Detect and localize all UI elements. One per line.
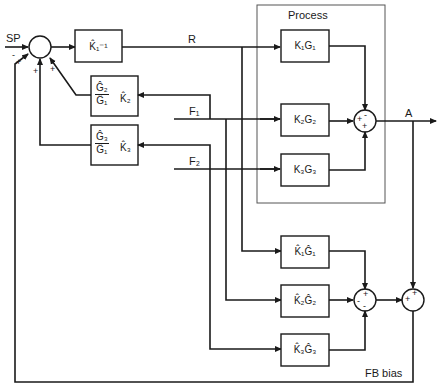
- input-sum-sign-k2: +: [50, 65, 55, 74]
- process-block-3-label: K₃G₃: [281, 165, 329, 175]
- input-sum-sign-sp: -: [12, 51, 15, 60]
- a-signal-label: A: [405, 108, 412, 119]
- g3-numerator: Ĝ₃: [95, 131, 109, 144]
- g2-numerator: Ĝ₂: [95, 82, 109, 95]
- input-sum-junction: [29, 36, 51, 58]
- k1-inverse-label: K̂₁⁻¹: [75, 42, 122, 52]
- g2-over-g1-fraction: Ĝ₂ Ĝ₁: [95, 82, 109, 106]
- process-sum-sign-top: -: [364, 111, 367, 120]
- g3-over-g1-fraction: Ĝ₃ Ĝ₁: [95, 131, 109, 155]
- f2-signal-label: F₂: [189, 156, 200, 167]
- process-block-2-label: K₂G₂: [281, 115, 329, 125]
- r-signal-label: R: [188, 34, 196, 45]
- fb-bias-label: FB bias: [365, 368, 402, 379]
- block-diagram: Process SP R F₁ F₂ A FB bias - + + + K̂₁…: [0, 0, 442, 391]
- setpoint-label: SP: [6, 33, 21, 44]
- model-block-3-label: K̂₃Ĝ₃: [281, 345, 329, 355]
- g1-denominator: Ĝ₁: [95, 95, 109, 107]
- input-sum-sign-k3: +: [33, 67, 38, 76]
- model-sum-sign-bottom: -: [363, 302, 366, 311]
- input-sum-sign-fb: +: [16, 58, 21, 67]
- process-block-1-label: K₁G₁: [281, 41, 329, 51]
- bias-sum-sign-left: +: [405, 295, 410, 304]
- g1-denominator: Ĝ₁: [95, 144, 109, 156]
- bias-sum-sign-top: +: [412, 289, 417, 298]
- k3-hat-label: K̂₃: [120, 143, 131, 153]
- model-sum-sign-top: +: [363, 290, 368, 299]
- model-block-2-label: K̂₂Ĝ₂: [281, 296, 329, 306]
- model-block-1-label: K̂₁Ĝ₁: [281, 247, 329, 257]
- f1-signal-label: F₁: [189, 106, 199, 117]
- diagram-wiring: [0, 0, 442, 391]
- model-sum-sign-left: -: [357, 297, 360, 306]
- k2-hat-label: K̂₂: [120, 94, 131, 104]
- process-label: Process: [288, 10, 328, 21]
- process-sum-sign-bottom: +: [362, 122, 367, 131]
